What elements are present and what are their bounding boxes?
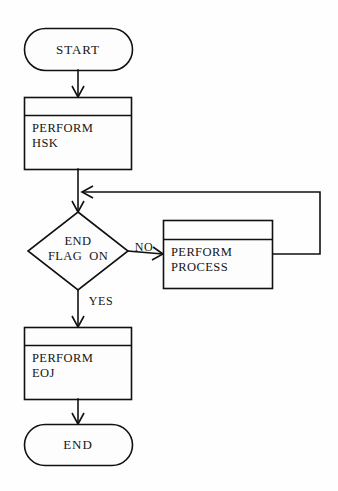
edge-hsk-to-decision — [72, 169, 84, 212]
node-end-label: END — [24, 437, 132, 452]
node-end-flag-decision-label-line2: FLAG ON — [24, 249, 132, 264]
node-perform-eoj-label-line1: PERFORM — [32, 351, 128, 366]
node-perform-hsk-label-line1: PERFORM — [32, 121, 128, 136]
node-start-label: START — [24, 42, 132, 57]
node-perform-eoj-label-line2: EOJ — [32, 366, 128, 381]
edge-eoj-to-end — [72, 399, 84, 424]
node-perform-hsk-label-line2: HSK — [32, 136, 128, 151]
edge-decision-yes-to-eoj — [72, 290, 84, 327]
node-perform-process-label-line1: PERFORM — [171, 245, 271, 260]
flowchart-canvas: START PERFORM HSK END FLAG ON PERFORM PR… — [0, 0, 338, 491]
node-perform-process-label-line2: PROCESS — [171, 260, 271, 275]
node-end-flag-decision-label-line1: END — [28, 234, 128, 249]
edge-start-to-hsk — [72, 70, 84, 97]
edge-label-no: NO — [129, 240, 159, 254]
edge-label-yes: YES — [84, 294, 118, 308]
